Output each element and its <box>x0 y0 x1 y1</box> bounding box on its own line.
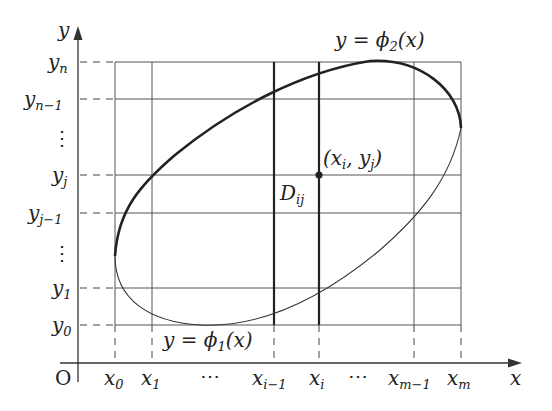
x-dots-left: ⋯ <box>200 366 220 386</box>
x-tick-m-1: xm−1 <box>388 368 431 391</box>
region-label: Dij <box>280 183 304 206</box>
origin-label: O <box>55 368 71 388</box>
label-phi1: y = ϕ1(x) <box>163 330 253 353</box>
y-axis-label: y <box>58 20 69 40</box>
x-dots-right: ⋯ <box>348 366 368 386</box>
x-tick-0: x0 <box>104 368 124 391</box>
label-phi2: y = ϕ2(x) <box>335 30 425 53</box>
x-axis-label: x <box>510 368 521 388</box>
dashed-guides <box>80 62 461 362</box>
point-xi-yj <box>315 171 322 178</box>
curve-phi1 <box>115 128 461 325</box>
y-tick-n: yn <box>48 52 68 75</box>
x-tick-i: xi <box>309 368 324 391</box>
curve-phi2 <box>115 61 461 256</box>
y-vdots-lower: ⋮ <box>52 243 72 263</box>
diagram-canvas <box>0 0 552 411</box>
point-label: (xi, yj) <box>323 148 382 171</box>
y-tick-1: y1 <box>52 278 72 301</box>
x-tick-m: xm <box>447 368 471 391</box>
x-tick-i-1: xi−1 <box>252 368 287 391</box>
y-tick-j: yj <box>52 165 67 188</box>
y-tick-n-1: yn−1 <box>24 89 63 112</box>
x-tick-1: x1 <box>141 368 161 391</box>
y-tick-j-1: yj−1 <box>28 203 63 226</box>
y-vdots-upper: ⋮ <box>52 128 72 148</box>
y-tick-0: y0 <box>52 315 72 338</box>
